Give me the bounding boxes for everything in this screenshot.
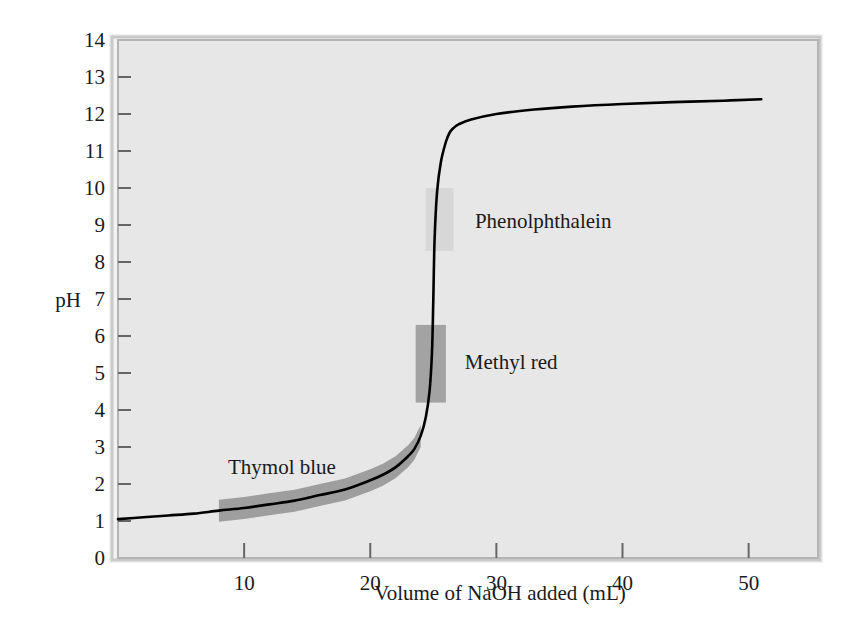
y-tick-label: 11 xyxy=(85,139,105,163)
x-tick-label: 50 xyxy=(738,571,759,595)
plot-background xyxy=(118,40,818,558)
x-tick-label: 10 xyxy=(234,571,255,595)
y-tick-label: 14 xyxy=(84,28,106,52)
y-tick-label: 7 xyxy=(95,287,106,311)
y-axis-title: pH xyxy=(55,288,81,312)
titration-curve-figure: 01234567891011121314 1020304050 Phenolph… xyxy=(0,0,866,633)
annotation-label-thymol-blue: Thymol blue xyxy=(228,455,336,479)
y-tick-label: 9 xyxy=(95,213,106,237)
y-tick-label: 5 xyxy=(95,361,106,385)
chart-canvas: 01234567891011121314 1020304050 Phenolph… xyxy=(0,0,866,633)
y-tick-label: 4 xyxy=(95,398,106,422)
y-tick-label: 10 xyxy=(84,176,105,200)
annotation-label-methyl-red: Methyl red xyxy=(465,350,558,374)
indicator-band-phenolphthalein xyxy=(426,188,454,251)
y-tick-label: 12 xyxy=(84,102,105,126)
y-axis-tick-labels: 01234567891011121314 xyxy=(84,28,106,570)
y-tick-label: 6 xyxy=(95,324,106,348)
y-tick-label: 1 xyxy=(95,509,106,533)
y-tick-label: 3 xyxy=(95,435,106,459)
y-tick-label: 0 xyxy=(95,546,106,570)
y-tick-label: 13 xyxy=(84,65,105,89)
x-axis-title: Volume of NaOH added (mL) xyxy=(374,581,626,605)
y-tick-label: 8 xyxy=(95,250,106,274)
annotation-label-phenolphthalein: Phenolphthalein xyxy=(475,209,612,233)
y-tick-label: 2 xyxy=(95,472,106,496)
